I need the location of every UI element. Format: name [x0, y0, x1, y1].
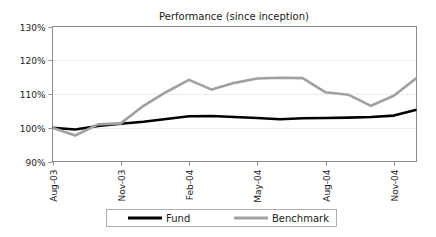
y-tick-label-130: 130%	[20, 23, 46, 33]
x-tick-label-Aug-03: Aug-03	[49, 170, 59, 202]
y-tick-label-100: 100%	[20, 124, 46, 134]
y-tick-label-90: 90%	[25, 158, 45, 168]
legend-label-benchmark: Benchmark	[272, 213, 329, 224]
y-tick-label-110: 110%	[20, 90, 46, 100]
chart-legend: Fund Benchmark	[107, 210, 337, 227]
chart-background	[0, 0, 436, 237]
x-tick-label-May-04: May-04	[253, 169, 263, 202]
x-tick-label-Feb-04: Feb-04	[185, 169, 195, 200]
chart-canvas: 90%100%110%120%130% Aug-03Nov-03Feb-04Ma…	[0, 0, 436, 237]
chart-title: Performance (since inception)	[159, 11, 309, 22]
y-tick-label-120: 120%	[20, 56, 46, 66]
legend-label-fund: Fund	[166, 213, 190, 224]
x-tick-label-Nov-03: Nov-03	[117, 170, 127, 202]
performance-chart: 90%100%110%120%130% Aug-03Nov-03Feb-04Ma…	[0, 0, 436, 237]
x-tick-label-Aug-04: Aug-04	[322, 169, 332, 202]
x-tick-label-Nov-04: Nov-04	[390, 169, 400, 201]
